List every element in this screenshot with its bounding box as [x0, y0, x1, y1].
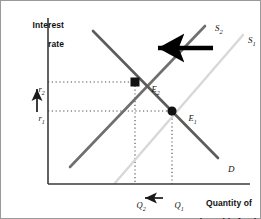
equilibrium-label-e2: E2 — [143, 76, 160, 106]
tick-label-r1: r1 — [30, 105, 45, 135]
equilibrium-point-e2 — [131, 78, 140, 87]
curve-label-s1-sub: 1 — [253, 40, 256, 47]
curve-label-d: D — [219, 155, 235, 184]
tick-label-q1-sub: 1 — [181, 206, 184, 212]
tick-label-q1: Q1 — [166, 192, 184, 219]
equilibrium-point-e1 — [167, 106, 176, 115]
equilibrium-label-e2-sub: 2 — [157, 90, 160, 96]
y-axis-title-line1: Interest — [32, 20, 64, 30]
curve-label-d-letter: D — [228, 164, 235, 174]
x-axis-title-line2: loanable funds — [200, 217, 261, 219]
equilibrium-label-e1: E1 — [180, 105, 197, 135]
tick-label-q2-sub: 2 — [143, 206, 146, 212]
curve-label-s2: S2 — [206, 14, 223, 44]
equilibrium-label-e1-sub: 1 — [194, 119, 197, 125]
loanable-funds-figure: Interest rate Quantity of loanable funds… — [0, 0, 261, 219]
y-axis-title-line2: rate — [48, 39, 64, 49]
x-axis-title: Quantity of loanable funds — [190, 190, 258, 219]
curve-label-s2-sub: 2 — [220, 28, 223, 35]
y-axis-title: Interest rate — [6, 12, 64, 58]
tick-label-r2-sub: 2 — [42, 90, 45, 96]
tick-label-q2: Q2 — [128, 192, 146, 219]
x-axis-title-line1: Quantity of — [206, 198, 252, 208]
tick-label-r2: r2 — [30, 76, 45, 106]
curve-label-s1: S1 — [239, 26, 256, 56]
tick-label-r1-sub: 1 — [42, 119, 45, 125]
